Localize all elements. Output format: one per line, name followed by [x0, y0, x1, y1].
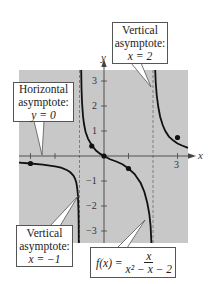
y-tick-label-neg3: −3 — [86, 225, 97, 236]
point-origin — [101, 153, 106, 158]
callout-line: asymptote: — [17, 240, 72, 253]
y-tick-label-1: 1 — [92, 125, 97, 136]
x-axis-arrow-icon — [188, 153, 196, 158]
callout-line: asymptote: — [113, 37, 167, 50]
callout-equation: x = 2 — [113, 50, 167, 63]
callout-equation: y = 0 — [14, 109, 73, 122]
point-3 — [175, 135, 180, 140]
callout-line: Horizontal — [14, 83, 73, 96]
function-denominator: x² − x − 2 — [126, 263, 172, 276]
function-definition-box: f(x) = x x² − x − 2 — [90, 247, 176, 278]
callout-line: Vertical — [17, 227, 72, 240]
y-tick-label-neg1: −1 — [86, 175, 97, 186]
x-axis-label: x — [198, 149, 203, 161]
point-neg3 — [28, 161, 33, 166]
point-neg0-5 — [89, 143, 94, 148]
callout-equation: x = −1 — [17, 253, 72, 266]
function-lhs: f(x) = — [96, 257, 123, 269]
callout-horizontal-asymptote-y-0: Horizontal asymptote: y = 0 — [13, 82, 74, 122]
callout-line: asymptote: — [14, 96, 73, 109]
function-numerator: x — [144, 250, 153, 263]
y-tick-label-neg2: −2 — [86, 200, 97, 211]
y-axis-label: y — [101, 51, 106, 63]
x-tick-label-3: 3 — [174, 159, 179, 170]
callout-line: Vertical — [113, 24, 167, 37]
y-tick-label-2: 2 — [92, 100, 97, 111]
callout-vertical-asymptote-x-neg1: Vertical asymptote: x = −1 — [16, 225, 73, 267]
callout-vertical-asymptote-x-2: Vertical asymptote: x = 2 — [112, 22, 168, 64]
y-tick-label-3: 3 — [92, 75, 97, 86]
point-1 — [126, 166, 131, 171]
function-fraction: x x² − x − 2 — [126, 250, 172, 276]
